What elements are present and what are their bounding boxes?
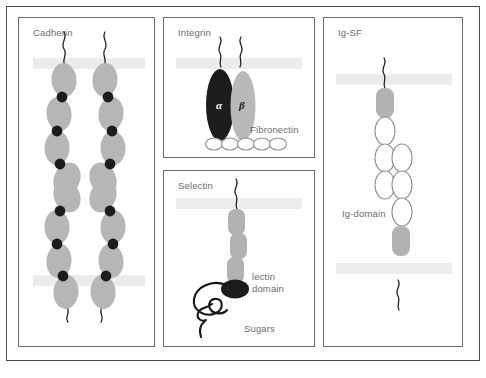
figure-root: Cadherin [0, 0, 486, 378]
selectin-repeat-domains [227, 209, 247, 283]
integrin-beta-label: β [239, 99, 245, 111]
cadherin-chain-left-bottom [44, 175, 86, 309]
lectin-domain [221, 280, 249, 299]
lectin-label-line1: lectin [252, 271, 275, 282]
cadherin-chain-left-top [44, 62, 86, 199]
lectin-domain-label: lectin domain [252, 271, 284, 294]
sugars-label: Sugars [244, 323, 275, 335]
panel-selectin: Selectin lectin domain Sugars [163, 170, 315, 347]
lectin-label-line2: domain [252, 283, 284, 294]
fibronectin-label: Fibronectin [250, 124, 299, 136]
panel-igsf: Ig-SF Ig-domain [323, 17, 463, 347]
fibronectin-chain [206, 138, 287, 150]
panel-cadherin: Cadherin [18, 17, 155, 347]
integrin-graphic [164, 18, 315, 158]
igsf-membrane-domain-top [376, 88, 394, 118]
cadherin-chain-right-bottom [85, 175, 127, 309]
igsf-chain-bottom [392, 144, 412, 256]
cadherin-graphic [19, 18, 155, 347]
panel-integrin: Integrin α β Fibronectin [163, 17, 315, 158]
selectin-graphic [164, 171, 315, 347]
integrin-alpha-label: α [216, 99, 222, 111]
igsf-membrane-domain-bottom [392, 226, 410, 256]
igsf-graphic [324, 18, 463, 347]
ig-domain-label: Ig-domain [342, 208, 386, 220]
cadherin-chain-right-top [85, 62, 127, 199]
